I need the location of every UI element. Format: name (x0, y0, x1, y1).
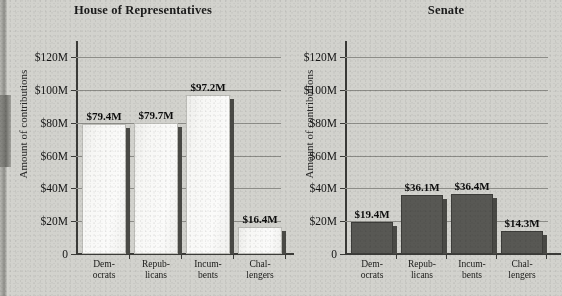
house-gridline (76, 57, 281, 58)
senate-gridline (345, 123, 548, 124)
senate-x-label-line2: ocrats (361, 270, 384, 281)
senate-bar[interactable]: $14.3M (501, 231, 543, 254)
senate-y-tick (340, 156, 345, 157)
house-x-label-line1: Repub- (142, 259, 170, 270)
house-bar[interactable]: $79.4M (82, 124, 126, 254)
senate-x-category-label: Incum-bents (458, 259, 485, 280)
house-bar-value-label: $97.2M (190, 81, 225, 93)
house-bar[interactable]: $97.2M (186, 95, 230, 254)
senate-y-tick-label: $40M (310, 182, 337, 194)
senate-x-label-line2: licans (408, 270, 436, 281)
house-x-label-line1: Dem- (93, 259, 116, 270)
house-chart-title: House of Representatives (0, 3, 288, 18)
senate-gridline (345, 57, 548, 58)
house-x-category-label: Dem-ocrats (93, 259, 116, 280)
house-y-tick-label: $20M (41, 215, 68, 227)
senate-y-tick-label: $120M (304, 51, 337, 63)
senate-bar-value-label: $19.4M (354, 208, 389, 220)
house-y-tick (71, 90, 76, 91)
house-y-tick-label: $120M (35, 51, 68, 63)
house-bar-shadow (126, 128, 130, 254)
senate-plot-area: $120M$100M$80M$60M$40M$20M0$19.4MDem-ocr… (345, 41, 548, 254)
senate-x-category-label: Dem-ocrats (361, 259, 384, 280)
house-bar-value-label: $79.4M (86, 110, 121, 122)
senate-bar-value-label: $36.1M (404, 181, 439, 193)
senate-bar-body (451, 194, 493, 254)
house-bar-body (82, 124, 126, 254)
house-y-tick (71, 123, 76, 124)
senate-bar-body (501, 231, 543, 254)
senate-bar[interactable]: $36.4M (451, 194, 493, 254)
senate-y-tick (340, 57, 345, 58)
senate-x-tick (396, 254, 397, 259)
senate-y-tick-label: 0 (331, 248, 337, 260)
house-y-tick (71, 188, 76, 189)
house-y-axis (76, 41, 78, 255)
house-y-tick-label: $100M (35, 84, 68, 96)
house-gridline (76, 90, 281, 91)
house-bar[interactable]: $16.4M (238, 227, 282, 254)
house-x-label-line1: Incum- (194, 259, 221, 270)
house-bar-body (186, 95, 230, 254)
house-x-tick (285, 254, 286, 259)
house-x-label-line2: bents (194, 270, 221, 281)
house-plot-area: $120M$100M$80M$60M$40M$20M0$79.4MDem-ocr… (76, 41, 281, 254)
house-y-tick-label: $40M (41, 182, 68, 194)
senate-gridline (345, 90, 548, 91)
senate-x-category-label: Repub-licans (408, 259, 436, 280)
house-y-tick (71, 221, 76, 222)
house-y-tick (71, 254, 76, 255)
senate-bar-body (351, 222, 393, 254)
house-y-tick-label: $60M (41, 150, 68, 162)
house-x-tick (129, 254, 130, 259)
senate-bar-shadow (393, 226, 397, 254)
house-x-tick (181, 254, 182, 259)
senate-bar-shadow (543, 235, 547, 254)
senate-x-label-line2: lengers (508, 270, 535, 281)
senate-x-label-line1: Incum- (458, 259, 485, 270)
house-bar-value-label: $16.4M (242, 213, 277, 225)
house-y-axis-label: Amount of contributions (17, 31, 29, 217)
senate-bar[interactable]: $36.1M (401, 195, 443, 254)
senate-gridline (345, 188, 548, 189)
senate-chart-title: Senate (314, 3, 562, 18)
senate-x-label-line1: Dem- (361, 259, 384, 270)
house-chart-panel: House of Representatives Amount of contr… (8, 0, 298, 296)
senate-y-tick (340, 123, 345, 124)
senate-bar-body (401, 195, 443, 254)
senate-y-tick-label: $100M (304, 84, 337, 96)
house-bar-value-label: $79.7M (138, 109, 173, 121)
house-x-label-line2: ocrats (93, 270, 116, 281)
house-x-category-label: Repub-licans (142, 259, 170, 280)
senate-bar[interactable]: $19.4M (351, 222, 393, 254)
senate-y-tick (340, 188, 345, 189)
house-y-tick-label: 0 (62, 248, 68, 260)
house-bar-body (134, 123, 178, 254)
house-y-tick (71, 156, 76, 157)
senate-bar-shadow (443, 199, 447, 254)
house-x-tick (233, 254, 234, 259)
senate-x-tick (546, 254, 547, 259)
house-bar-body (238, 227, 282, 254)
senate-y-tick (340, 221, 345, 222)
senate-y-tick-label: $80M (310, 117, 337, 129)
house-y-tick-label: $80M (41, 117, 68, 129)
senate-y-tick-label: $20M (310, 215, 337, 227)
senate-x-label-line2: bents (458, 270, 485, 281)
house-bar[interactable]: $79.7M (134, 123, 178, 254)
senate-x-category-label: Chal-lengers (508, 259, 535, 280)
senate-y-axis (345, 41, 347, 255)
senate-x-tick (496, 254, 497, 259)
house-x-label-line2: lengers (246, 270, 273, 281)
house-bar-shadow (178, 127, 182, 254)
senate-y-tick (340, 90, 345, 91)
senate-x-label-line1: Repub- (408, 259, 436, 270)
senate-bar-value-label: $14.3M (504, 217, 539, 229)
senate-y-tick-label: $60M (310, 150, 337, 162)
house-bar-shadow (282, 231, 286, 254)
house-x-label-line2: licans (142, 270, 170, 281)
senate-bar-shadow (493, 198, 497, 254)
house-x-category-label: Incum-bents (194, 259, 221, 280)
house-x-label-line1: Chal- (246, 259, 273, 270)
senate-bar-value-label: $36.4M (454, 180, 489, 192)
